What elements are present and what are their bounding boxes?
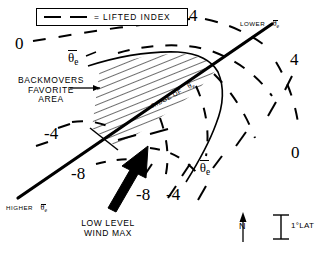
theta-e-label-higher: θe xyxy=(41,204,47,213)
contour-tick-g xyxy=(213,156,222,168)
backmovers-line-3: AREA xyxy=(8,95,94,105)
theta-overbar xyxy=(41,204,46,205)
lower-theta-e-label: LOWER θe xyxy=(240,12,279,30)
theta-e-label-topleft: θe xyxy=(68,51,78,67)
lower-text: LOWER xyxy=(240,20,265,27)
north-label: N xyxy=(239,221,246,231)
contour-label-4-top: 4 xyxy=(189,6,198,25)
contour-label-0-topleft: 0 xyxy=(15,34,24,53)
lifted-index-schematic-figure: = LIFTED INDEX 0 4 4 0 -4 -8 -8 -4 -4 θe… xyxy=(0,0,320,257)
contour-label-0-right: 0 xyxy=(291,143,300,162)
theta-overbar xyxy=(68,50,77,51)
lifted-index-legend: = LIFTED INDEX xyxy=(36,8,188,26)
contour-tick-i xyxy=(268,102,276,116)
contour-tick-e xyxy=(198,186,206,200)
backmovers-favorite-area-label: BACKMOVERS FAVORITE AREA xyxy=(8,76,94,105)
scale-bar-label: 1°LAT xyxy=(291,222,314,231)
contour-label-minus8-left: -8 xyxy=(71,164,85,183)
contour-inner-right xyxy=(214,74,255,138)
contour-minus8-right xyxy=(150,148,196,172)
low-level-wind-max-label: LOW LEVEL WIND MAX xyxy=(60,219,156,238)
wind-max-line-2: WIND MAX xyxy=(60,229,156,239)
theta-e-label-bottom: θe xyxy=(200,161,210,177)
contour-tick-h xyxy=(236,132,246,146)
theta-e-leader-top xyxy=(86,52,96,56)
theta-overbar xyxy=(200,160,209,161)
contour-label-minus4-south xyxy=(172,186,176,205)
contour-label-minus8-mid: -8 xyxy=(136,185,150,204)
contour-tick-c xyxy=(58,124,70,128)
legend-label: = LIFTED INDEX xyxy=(94,12,171,22)
scale-bar xyxy=(273,215,289,239)
contour-label-4-right: 4 xyxy=(290,50,299,69)
theta-overbar xyxy=(273,20,278,21)
contour-label-minus4-left: -4 xyxy=(44,124,58,143)
higher-theta-e-label: HIGHER θe xyxy=(6,196,47,214)
legend-dash-icon-1 xyxy=(44,16,61,19)
contour-minus4-mid xyxy=(160,118,167,182)
contour-0-right xyxy=(276,62,299,130)
theta-e-label-lower: θe xyxy=(273,20,279,29)
legend-dash-icon-2 xyxy=(70,16,87,19)
higher-text: HIGHER xyxy=(6,204,33,211)
contour-tick-f xyxy=(182,164,190,176)
contour-tick-b xyxy=(150,129,168,134)
